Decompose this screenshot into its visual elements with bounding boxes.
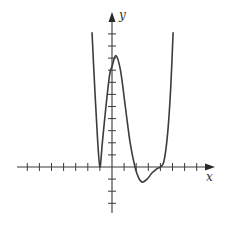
x-axis-label: x <box>206 171 213 183</box>
function-curve <box>92 33 173 182</box>
y-axis-arrow-icon <box>109 12 116 22</box>
function-graph <box>0 0 225 229</box>
y-axis-label: y <box>119 9 126 21</box>
